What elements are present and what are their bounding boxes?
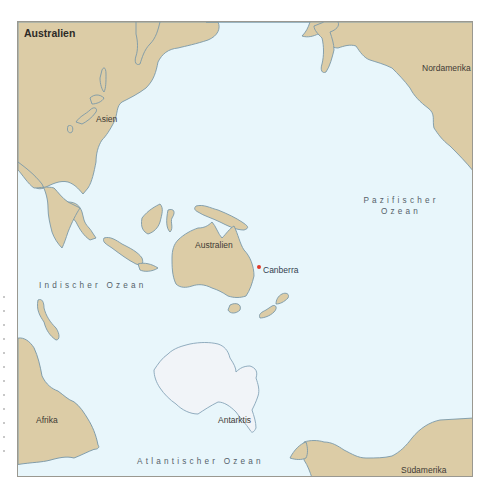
pazifik-line-2: Ozean (346, 206, 456, 217)
label-afrika: Afrika (36, 415, 58, 425)
label-asien: Asien (96, 114, 117, 124)
label-pazifischer-ozean: Pazifischer Ozean (346, 195, 456, 217)
map-canvas (18, 22, 473, 477)
landmass-borneo (141, 204, 162, 234)
map-title: Australien (24, 27, 75, 39)
map-frame: Australien Asien Nordamerika Australien … (17, 21, 473, 477)
landmass-java (138, 263, 158, 271)
label-canberra: Canberra (263, 265, 298, 275)
pazifik-line-1: Pazifischer (346, 195, 456, 206)
landmass-asia (18, 22, 219, 194)
landmass-south-america-cape (290, 442, 308, 460)
label-antarktis: Antarktis (218, 415, 251, 425)
landmass-madagascar (37, 299, 59, 340)
landmass-kyushu (67, 125, 72, 132)
label-atlantischer-ozean: Atlantischer Ozean (137, 456, 264, 467)
landmass-north-america (206, 22, 473, 172)
landmass-new-guinea (195, 205, 248, 230)
label-nordamerika: Nordamerika (422, 63, 471, 73)
page-margin-marks (3, 296, 6, 471)
label-australien: Australien (195, 240, 233, 250)
city-marker-canberra[interactable] (257, 265, 261, 269)
landmass-sulawesi (167, 209, 174, 232)
label-indischer-ozean: Indischer Ozean (39, 280, 147, 291)
landmass-south-america (304, 418, 473, 477)
label-suedamerika: Südamerika (401, 465, 446, 475)
landmass-new-zealand-north (276, 293, 289, 304)
landmass-australia (172, 222, 254, 298)
landmass-sumatra (103, 237, 142, 264)
landmass-africa (18, 338, 99, 465)
landmass-tasmania (228, 304, 240, 313)
landmass-new-zealand-south (259, 305, 276, 318)
